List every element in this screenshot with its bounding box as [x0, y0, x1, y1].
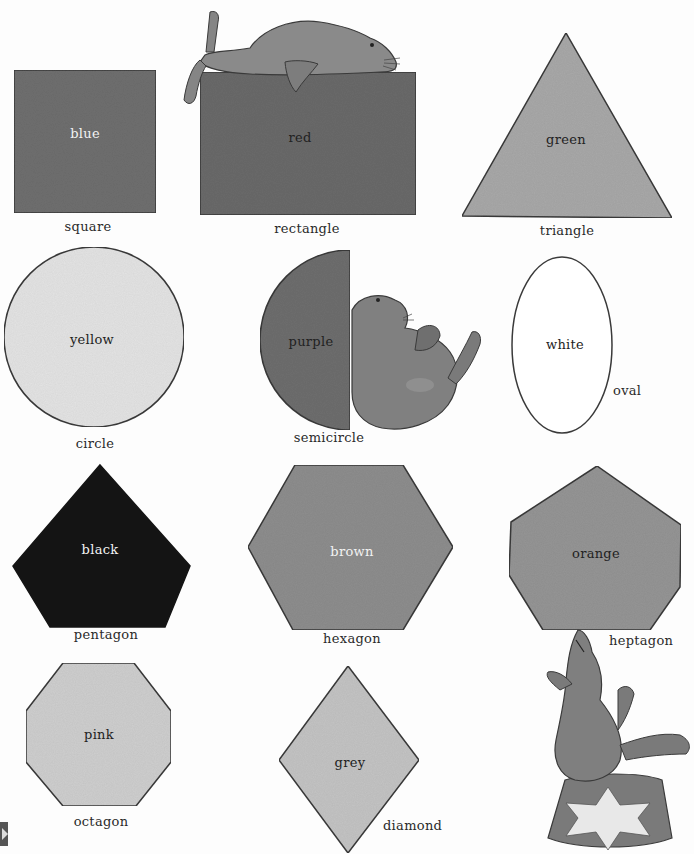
circus-drum-icon: [548, 774, 672, 850]
triangle-shape: [462, 33, 672, 218]
color-label-red: red: [288, 130, 311, 145]
color-label-white: white: [546, 337, 584, 352]
seal-icon: [547, 630, 689, 781]
color-label-black: black: [82, 542, 119, 557]
shape-label-octagon: octagon: [74, 814, 129, 829]
color-label-orange: orange: [572, 546, 620, 561]
color-label-yellow: yellow: [70, 332, 114, 347]
shape-label-rectangle: rectangle: [274, 221, 339, 236]
color-label-brown: brown: [330, 544, 373, 559]
shape-label-triangle: triangle: [540, 223, 594, 238]
shape-label-oval: oval: [613, 383, 641, 398]
shape-label-hexagon: hexagon: [323, 631, 381, 646]
shape-label-circle: circle: [76, 436, 115, 451]
shape-label-square: square: [65, 219, 112, 234]
shape-label-pentagon: pentagon: [74, 627, 138, 642]
color-label-blue: blue: [70, 126, 100, 141]
seal-icon: [352, 296, 481, 429]
color-label-pink: pink: [84, 727, 114, 742]
corner-fragment: [0, 822, 8, 846]
color-label-grey: grey: [335, 755, 366, 770]
color-label-green: green: [546, 132, 586, 147]
color-label-purple: purple: [289, 334, 334, 349]
shape-label-semicircle: semicircle: [294, 430, 365, 445]
shapes-page: blue red green yellow purple white black…: [0, 0, 694, 854]
shape-label-heptagon: heptagon: [609, 633, 673, 648]
shape-label-diamond: diamond: [383, 818, 442, 833]
square-shape: [14, 70, 156, 213]
